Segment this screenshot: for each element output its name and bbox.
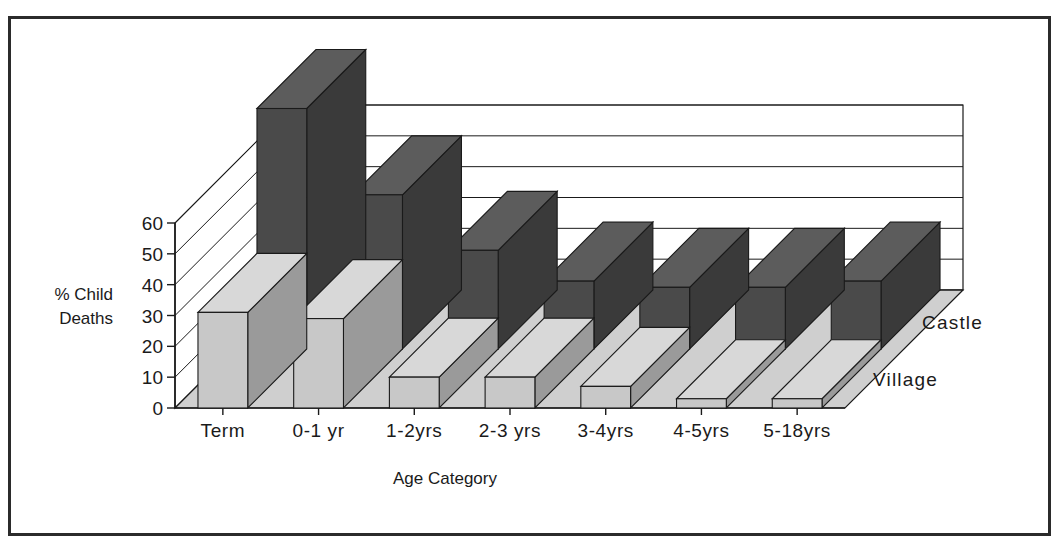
y-axis-tick-label: 60 [142, 213, 163, 234]
y-axis-tick-label: 0 [152, 398, 163, 419]
bar-front-face [198, 312, 248, 408]
series-label-castle: Castle [922, 312, 983, 333]
y-axis-tick-label: 10 [142, 367, 163, 388]
y-axis-tick-label: 40 [142, 275, 163, 296]
x-axis-category-label-1: 0-1 yr [292, 420, 344, 441]
x-axis-category-label-5: 4-5yrs [673, 420, 729, 441]
x-axis-category-label-0: Term [201, 420, 246, 441]
x-axis-title: Age Category [393, 469, 497, 488]
y-axis-tick-label: 30 [142, 306, 163, 327]
bar-front-face [485, 377, 535, 408]
y-axis-title-line-0: % Child [54, 285, 113, 304]
bar-front-face [581, 386, 631, 408]
y-axis-title-line-1: Deaths [59, 309, 113, 328]
y-axis-tick-label: 50 [142, 244, 163, 265]
x-axis-category-label-6: 5-18yrs [763, 420, 831, 441]
bar-front-face [677, 399, 727, 408]
x-axis-category-label-2: 1-2yrs [386, 420, 442, 441]
x-axis-category-label-3: 2-3 yrs [479, 420, 541, 441]
bar-front-face [772, 399, 822, 408]
series-label-village: Village [873, 369, 938, 390]
x-axis-category-label-4: 3-4yrs [578, 420, 634, 441]
y-axis-tick-label: 20 [142, 336, 163, 357]
bar-front-face [389, 377, 439, 408]
